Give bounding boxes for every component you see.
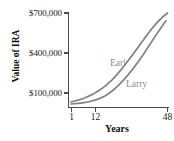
- y-tick-label-400000: $400,000: [0, 48, 62, 58]
- ira-growth-chart: $700,000 $400,000 $100,000 1 12 48 Value…: [0, 0, 174, 141]
- y-tick-label-700000: $700,000: [0, 8, 62, 18]
- series-label-larry: Larry: [126, 79, 147, 89]
- y-axis-title: Value of IRA: [11, 23, 21, 89]
- x-axis-title: Years: [60, 123, 174, 134]
- x-tick-label-1: 1: [61, 112, 82, 122]
- x-tick-label-48: 48: [157, 112, 174, 122]
- y-tick-label-100000: $100,000: [0, 88, 62, 98]
- series-label-earl: Earl: [110, 58, 126, 68]
- x-tick-label-12: 12: [85, 112, 106, 122]
